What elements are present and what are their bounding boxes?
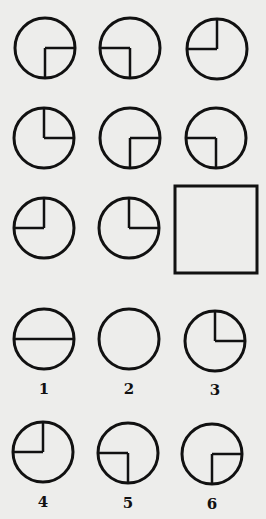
matrix-figure-5 <box>100 108 160 168</box>
missing-figure-box <box>175 186 257 273</box>
option-label-5: 5 <box>118 494 138 512</box>
answer-option-6[interactable] <box>182 424 242 484</box>
matrix-figure-3 <box>187 19 247 79</box>
answer-option-4[interactable] <box>13 422 73 482</box>
answer-option-3[interactable] <box>185 311 245 371</box>
matrix-figure-1 <box>15 18 75 78</box>
option-label-4: 4 <box>33 493 53 511</box>
option-label-3: 3 <box>205 381 225 399</box>
answer-option-1[interactable] <box>14 309 74 369</box>
answer-option-5[interactable] <box>98 423 158 483</box>
option-label-1: 1 <box>34 380 54 398</box>
matrix-figure-7 <box>14 198 74 258</box>
answer-option-2[interactable] <box>99 309 159 369</box>
matrix-figure-6 <box>186 108 246 168</box>
option-label-2: 2 <box>119 380 139 398</box>
option-label-6: 6 <box>202 495 222 513</box>
matrix-figure-4 <box>14 108 74 168</box>
matrix-figure-8 <box>99 198 159 258</box>
puzzle-canvas <box>0 0 266 519</box>
matrix-figure-2 <box>100 18 160 78</box>
